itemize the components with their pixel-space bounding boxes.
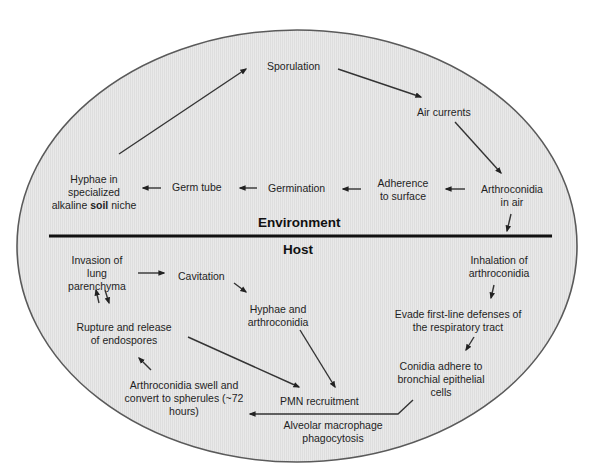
node-hyphae-soil: Hyphae in specialized alkaline soil nich… [46,173,142,212]
node-germ-tube: Germ tube [172,181,222,194]
node-invasion-line3: parenchyma [66,280,128,293]
node-evade-line1: Evade first-line defenses of [391,308,525,321]
node-conidia-adhere: Conidia adhere to bronchial epithelial c… [393,360,489,399]
node-conidia-adhere-line2: bronchial epithelial [393,373,489,386]
node-hyphae-arthro-line2: arthroconidia [242,316,314,329]
node-invasion: Invasion of lung parenchyma [66,254,128,293]
node-macrophage: Alveolar macrophage phagocytosis [280,419,386,445]
node-swell-line2: convert to spherules (~72 [124,392,244,405]
environment-section-label: Environment [258,215,341,230]
node-inhalation: Inhalation of arthroconidia [462,254,536,280]
host-section-label: Host [283,242,313,257]
node-evade: Evade first-line defenses of the respira… [391,308,525,334]
node-macrophage-line1: Alveolar macrophage [280,419,386,432]
soil-pre: alkaline [52,199,91,211]
node-conidia-adhere-line1: Conidia adhere to [393,360,489,373]
node-rupture-line1: Rupture and release [74,321,174,334]
node-adherence-line2: to surface [368,190,438,203]
node-germination: Germination [268,182,325,195]
node-sporulation: Sporulation [267,60,320,73]
node-hyphae-arthro-line1: Hyphae and [242,303,314,316]
node-swell-line3: hours) [124,405,244,418]
node-invasion-line1: Invasion of [66,254,128,267]
node-invasion-line2: lung [66,267,128,280]
node-arthroconidia-in-air: Arthroconidia in air [472,183,552,209]
node-air-currents: Air currents [417,106,471,119]
node-swell-line1: Arthroconidia swell and [124,379,244,392]
node-evade-line2: the respiratory tract [391,321,525,334]
node-hyphae-soil-line3: alkaline soil niche [46,199,142,212]
node-adherence: Adherence to surface [368,177,438,203]
node-arthroconidia-line2: in air [472,196,552,209]
node-rupture: Rupture and release of endospores [74,321,174,347]
soil-bold: soil [90,199,108,211]
node-hyphae-arthro: Hyphae and arthroconidia [242,303,314,329]
node-cavitation: Cavitation [178,270,225,283]
node-macrophage-line2: phagocytosis [280,432,386,445]
node-rupture-line2: of endospores [74,334,174,347]
node-pmn: PMN recruitment [280,395,359,408]
node-conidia-adhere-line3: cells [393,386,489,399]
node-inhalation-line2: arthroconidia [462,267,536,280]
node-inhalation-line1: Inhalation of [462,254,536,267]
node-adherence-line1: Adherence [368,177,438,190]
node-arthroconidia-line1: Arthroconidia [472,183,552,196]
node-hyphae-soil-line2: specialized [46,186,142,199]
node-hyphae-soil-line1: Hyphae in [46,173,142,186]
node-swell: Arthroconidia swell and convert to spher… [124,379,244,418]
soil-post: niche [108,199,136,211]
